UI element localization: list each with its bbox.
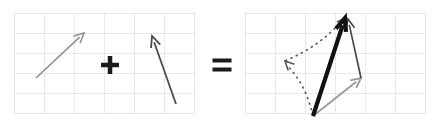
plus-icon-vertical-bar — [108, 56, 113, 74]
vector-addition-figure — [0, 0, 438, 126]
vector-shaft — [313, 25, 343, 116]
equals-icon-bar-2 — [213, 68, 232, 72]
vector-a-left — [36, 33, 84, 78]
grid-layer — [14, 13, 426, 114]
vector-shaft — [36, 37, 80, 78]
vector-layer — [36, 18, 361, 116]
vector-a-dashed — [285, 61, 313, 116]
figure-canvas — [0, 0, 438, 126]
equals-icon-bar-1 — [213, 59, 232, 63]
vector-shaft — [349, 25, 361, 78]
operator-layer — [101, 56, 232, 74]
operator-equals — [213, 59, 232, 72]
vector-b-result — [346, 19, 361, 78]
operator-plus — [101, 56, 119, 74]
